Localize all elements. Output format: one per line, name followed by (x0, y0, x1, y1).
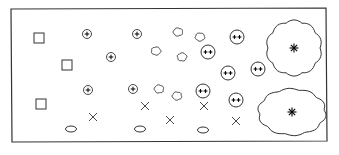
small-blob-icon (177, 53, 187, 61)
small-blob-icon (173, 28, 183, 36)
square-icon (34, 33, 44, 43)
double-plus-circle-icon (196, 84, 210, 98)
cross-icon (232, 117, 240, 125)
asterisk-icon (290, 44, 299, 53)
plus-circle-icon (129, 85, 138, 94)
square-icon (36, 99, 46, 109)
square-icon (62, 60, 72, 70)
small-blob-icon (172, 92, 182, 100)
small-blob-icon (151, 47, 161, 55)
small-blob-icon (154, 85, 164, 93)
double-plus-circle-icon (230, 30, 244, 44)
large-cloud-icon (258, 88, 326, 135)
plus-circle-icon (84, 86, 93, 95)
cross-icon (200, 102, 208, 110)
diagram-svg (0, 0, 339, 155)
oval-icon (135, 126, 146, 132)
oval-icon (198, 127, 209, 133)
small-blob-icon (195, 33, 205, 41)
double-plus-circle-icon (201, 45, 215, 59)
double-plus-circle-icon (229, 93, 243, 107)
double-plus-circle-icon (251, 62, 265, 76)
plus-circle-icon (107, 53, 116, 62)
plus-circle-icon (133, 30, 142, 39)
asterisk-icon (288, 108, 297, 117)
double-plus-circle-icon (221, 66, 235, 80)
cross-icon (166, 116, 174, 124)
oval-icon (66, 126, 77, 132)
plus-circle-icon (83, 30, 92, 39)
diagram-frame (11, 8, 327, 142)
cross-icon (89, 113, 97, 121)
large-cloud-icon (267, 20, 321, 76)
cross-icon (141, 102, 149, 110)
